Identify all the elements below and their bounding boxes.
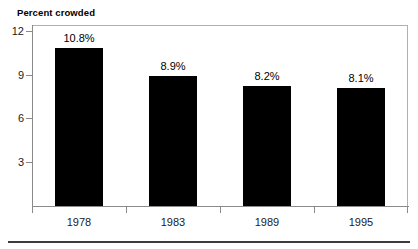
chart-title [0, 0, 418, 3]
y-tick-label-12: 12 [0, 26, 24, 37]
y-tick-6 [26, 118, 33, 119]
y-axis-line [32, 25, 33, 207]
y-tick-label-9: 9 [0, 70, 24, 81]
bar-value-1989: 8.2% [227, 71, 307, 82]
x-axis-label-1989: 1989 [227, 216, 307, 228]
bar-value-1983: 8.9% [133, 61, 213, 72]
bar-value-1995: 8.1% [321, 73, 401, 84]
category-separator-2 [220, 207, 221, 213]
x-axis-label-1978: 1978 [39, 216, 119, 228]
y-tick-9 [26, 75, 33, 76]
bar-1989 [243, 86, 291, 206]
bar-value-1978: 10.8% [39, 33, 119, 44]
y-tick-label-3: 3 [0, 157, 24, 168]
bottom-rule [8, 241, 410, 243]
x-axis-label-1983: 1983 [133, 216, 213, 228]
y-tick-label-6: 6 [0, 113, 24, 124]
bar-1978 [55, 48, 103, 206]
y-tick-12 [26, 31, 33, 32]
category-separator-1 [126, 207, 127, 213]
x-axis-end-tick-left [32, 207, 33, 213]
y-tick-3 [26, 162, 33, 163]
x-axis-label-1995: 1995 [321, 216, 401, 228]
y-axis-label: Percent crowded [17, 7, 95, 18]
x-axis-end-tick-right [407, 207, 408, 213]
category-separator-3 [314, 207, 315, 213]
bar-1983 [149, 76, 197, 206]
bar-1995 [337, 88, 385, 206]
